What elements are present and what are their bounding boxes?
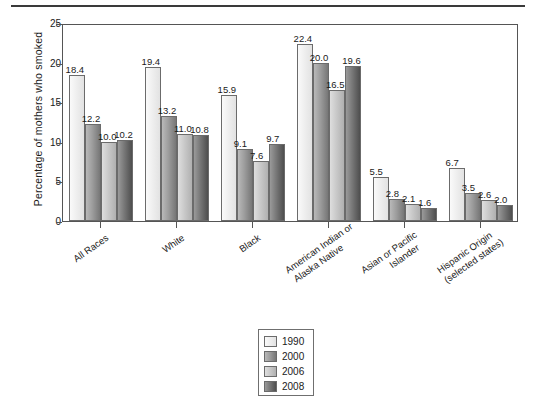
bar bbox=[449, 168, 465, 221]
category-label: American Indian orAlaska Native bbox=[283, 232, 345, 285]
y-tick-mark bbox=[56, 222, 62, 223]
legend-label: 2008 bbox=[282, 381, 304, 392]
x-tick-mark bbox=[252, 222, 253, 228]
bar bbox=[193, 135, 209, 221]
bar-value-label: 2.1 bbox=[402, 193, 415, 204]
legend-swatch bbox=[264, 381, 277, 392]
header-rule bbox=[11, 5, 525, 7]
bar bbox=[221, 95, 237, 221]
bar-value-label: 2.6 bbox=[478, 189, 491, 200]
x-tick-mark bbox=[404, 222, 405, 228]
bar bbox=[101, 142, 117, 221]
bar-value-label: 3.5 bbox=[462, 182, 475, 193]
bar-value-label: 13.2 bbox=[158, 105, 177, 116]
bar bbox=[297, 44, 313, 221]
bar bbox=[117, 140, 133, 221]
bar-value-label: 16.5 bbox=[326, 79, 345, 90]
bar bbox=[177, 134, 193, 221]
smoking-rates-bar-chart: Percentage of mothers who smoked 0510152… bbox=[0, 0, 536, 413]
bar bbox=[373, 177, 389, 221]
bar-value-label: 15.9 bbox=[218, 84, 237, 95]
x-tick-mark bbox=[176, 222, 177, 228]
bar-value-label: 19.4 bbox=[142, 56, 161, 67]
legend-item: 2008 bbox=[264, 379, 313, 394]
bar-value-label: 12.2 bbox=[82, 113, 101, 124]
plot-area bbox=[62, 24, 518, 222]
bar-value-label: 10.2 bbox=[114, 129, 133, 140]
bar-value-label: 10.8 bbox=[190, 124, 209, 135]
bar-value-label: 18.4 bbox=[66, 64, 85, 75]
legend-item: 2000 bbox=[264, 349, 313, 364]
legend: 1990200020062008 bbox=[258, 329, 314, 396]
x-tick-mark bbox=[100, 222, 101, 228]
bar-value-label: 6.7 bbox=[446, 157, 459, 168]
bar bbox=[69, 75, 85, 221]
x-tick-mark bbox=[480, 222, 481, 228]
category-label: Black bbox=[207, 232, 263, 276]
bar-value-label: 19.6 bbox=[342, 55, 361, 66]
bar bbox=[253, 161, 269, 221]
bar-value-label: 9.1 bbox=[234, 138, 247, 149]
bar-value-label: 5.5 bbox=[370, 166, 383, 177]
category-label: White bbox=[131, 232, 187, 276]
bar bbox=[329, 90, 345, 221]
legend-item: 1990 bbox=[264, 334, 313, 349]
legend-swatch bbox=[264, 351, 277, 362]
y-axis-title: Percentage of mothers who smoked bbox=[32, 4, 44, 234]
bar bbox=[421, 208, 437, 221]
legend-swatch bbox=[264, 336, 277, 347]
legend-label: 2006 bbox=[282, 366, 304, 377]
bar-value-label: 2.0 bbox=[494, 194, 507, 205]
bar bbox=[269, 144, 285, 221]
bar-value-label: 22.4 bbox=[294, 33, 313, 44]
legend-item: 2006 bbox=[264, 364, 313, 379]
bar bbox=[145, 67, 161, 221]
bar-value-label: 9.7 bbox=[266, 133, 279, 144]
category-label: All Races bbox=[55, 232, 111, 276]
bar bbox=[345, 66, 361, 221]
legend-label: 1990 bbox=[282, 336, 304, 347]
bar-value-label: 11.0 bbox=[174, 123, 192, 134]
legend-swatch bbox=[264, 366, 277, 377]
category-label: Hispanic Origin(selected states) bbox=[435, 232, 497, 285]
bar bbox=[497, 205, 513, 221]
category-label: Asian or PacificIslander bbox=[359, 232, 421, 285]
bar-value-label: 7.6 bbox=[250, 150, 263, 161]
bar-value-label: 1.6 bbox=[418, 197, 431, 208]
legend-label: 2000 bbox=[282, 351, 304, 362]
bar-value-label: 20.0 bbox=[310, 52, 329, 63]
bar-value-label: 2.8 bbox=[386, 188, 399, 199]
x-tick-mark bbox=[328, 222, 329, 228]
